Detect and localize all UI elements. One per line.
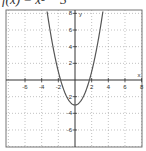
y-tick-label: -4	[67, 110, 73, 116]
x-tick-label: 2	[90, 84, 94, 90]
x-tick-label: 8	[140, 84, 144, 90]
plot-frame	[6, 10, 142, 147]
y-tick-label: -6	[67, 127, 73, 133]
y-axis-label: y	[79, 11, 82, 17]
x-tick-label: -2	[56, 84, 62, 90]
x-tick-label: 6	[123, 84, 127, 90]
x-axis-label: x	[138, 72, 141, 78]
x-tick-label: 4	[107, 84, 111, 90]
x-tick-label: -6	[22, 84, 28, 90]
x-tick-label: -4	[39, 84, 45, 90]
function-graph: -6-4-22468-6-4-22468xy	[0, 0, 146, 151]
